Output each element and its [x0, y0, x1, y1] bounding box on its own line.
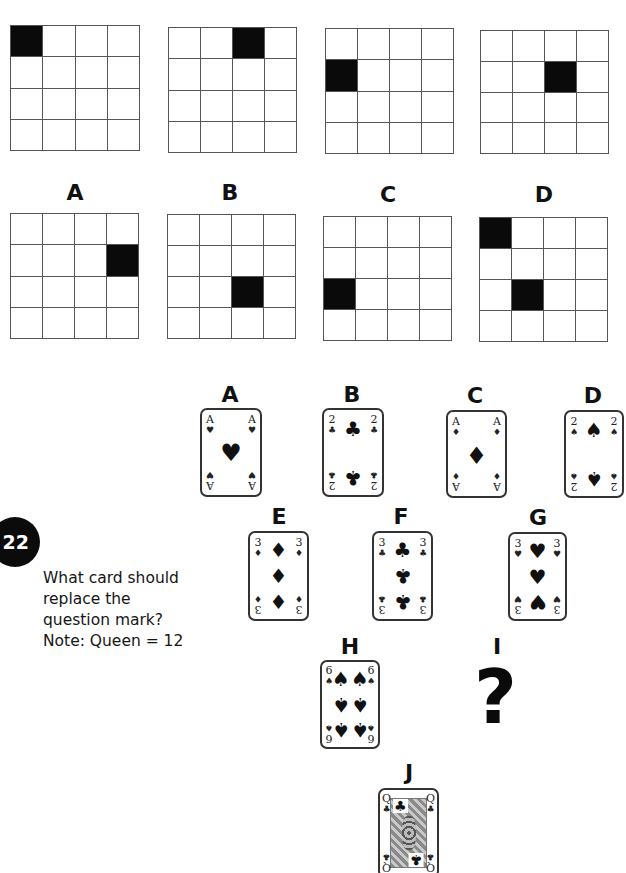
question-line-1: What card should — [43, 568, 223, 589]
heart-icon: ♥ — [529, 567, 547, 587]
card-corner: 3♣ — [419, 594, 427, 615]
grid-cell — [576, 218, 608, 249]
sequence-grid-3 — [325, 28, 454, 154]
card-corner: 3♦ — [254, 594, 262, 615]
grid-option-a[interactable] — [10, 213, 139, 339]
spade-icon: ♠ — [610, 428, 618, 437]
grid-option-label-b: B — [210, 180, 250, 205]
card-g-three-of-hearts[interactable]: 3♥ 3♥ 3♥ 3♥ ♥ ♥ ♥ — [508, 532, 567, 621]
grid-cell — [233, 122, 265, 153]
grid-cell — [356, 217, 388, 248]
question-number: 22 — [3, 531, 29, 553]
grid-cell — [11, 245, 43, 276]
grid-cell — [420, 279, 452, 310]
grid-cell — [11, 277, 43, 308]
spade-icon: ♠ — [585, 420, 603, 440]
diamond-icon: ♦ — [254, 594, 262, 603]
card-h-six-of-spades[interactable]: 6♠ 6♠ 6♠ 6♠ ♠ ♠ ♠ ♠ ♠ ♠ — [320, 660, 380, 749]
grid-cell — [512, 218, 544, 249]
grid-cell — [356, 310, 388, 341]
grid-cell — [265, 59, 297, 90]
card-label-b: B — [332, 382, 372, 407]
grid-cell — [513, 93, 545, 124]
grid-cell — [232, 277, 264, 308]
grid-cell — [577, 93, 609, 124]
grid-cell — [545, 31, 577, 62]
grid-cell — [480, 280, 512, 311]
grid-cell — [11, 26, 43, 57]
grid-cell — [480, 249, 512, 280]
diamond-icon: ♦ — [270, 592, 288, 612]
card-corner: Q♣ — [382, 852, 391, 873]
card-corner: 3♦ — [254, 537, 262, 558]
card-corner: A♥ — [248, 470, 256, 491]
grid-cell — [169, 122, 201, 153]
card-corner: 2♣ — [370, 414, 378, 435]
grid-cell — [76, 26, 108, 57]
grid-cell — [356, 279, 388, 310]
card-corner: 2♠ — [570, 471, 578, 492]
grid-cell — [513, 31, 545, 62]
grid-option-label-d: D — [524, 182, 564, 207]
club-icon: ♣ — [426, 805, 434, 814]
grid-cell — [422, 123, 454, 154]
grid-cell — [326, 29, 358, 60]
card-a-ace-of-hearts[interactable]: A♥ A♥ A♥ A♥ ♥ — [200, 408, 262, 497]
grid-option-label-c: C — [368, 182, 408, 207]
card-e-three-of-diamonds[interactable]: 3♦ 3♦ 3♦ 3♦ ♦ ♦ ♦ — [248, 531, 309, 621]
grid-option-b[interactable] — [167, 214, 296, 339]
grid-cell — [324, 217, 356, 248]
grid-cell — [233, 59, 265, 90]
card-c-ace-of-diamonds[interactable]: A♦ A♦ A♦ A♦ ♦ — [446, 410, 507, 498]
diamond-icon: ♦ — [493, 471, 501, 480]
grid-cell — [358, 123, 390, 154]
grid-cell — [326, 92, 358, 123]
grid-cell — [481, 31, 513, 62]
grid-cell — [75, 214, 107, 245]
sequence-grid-2 — [168, 27, 297, 153]
grid-cell — [11, 308, 43, 339]
card-corner: 2♠ — [610, 471, 618, 492]
card-corner: 2♣ — [370, 470, 378, 491]
grid-cell — [11, 57, 43, 88]
card-f-three-of-clubs[interactable]: 3♣ 3♣ 3♣ 3♣ ♣ ♣ ♣ — [372, 531, 433, 621]
diamond-icon: ♦ — [270, 566, 288, 586]
grid-cell — [481, 123, 513, 154]
grid-option-c[interactable] — [323, 216, 452, 341]
heart-icon: ♥ — [529, 541, 547, 561]
card-label-e: E — [259, 504, 299, 529]
heart-icon: ♥ — [248, 426, 256, 435]
grid-cell — [513, 62, 545, 93]
diamond-icon: ♦ — [270, 540, 288, 560]
grid-cell — [358, 60, 390, 91]
card-corner: 3♥ — [514, 538, 522, 559]
card-b-two-of-clubs[interactable]: 2♣ 2♣ 2♣ 2♣ ♣ ♣ — [322, 408, 384, 497]
club-icon: ♣ — [382, 852, 390, 861]
card-corner: A♥ — [206, 470, 214, 491]
grid-cell — [75, 277, 107, 308]
card-label-g: G — [518, 505, 558, 530]
grid-cell — [358, 92, 390, 123]
grid-cell — [577, 62, 609, 93]
spade-icon: ♠ — [610, 471, 618, 480]
question-line-2: replace the — [43, 589, 223, 610]
club-icon: ♣ — [328, 426, 336, 435]
grid-cell — [544, 249, 576, 280]
card-corner: 3♦ — [295, 537, 303, 558]
grid-cell — [168, 246, 200, 277]
card-j-queen-of-clubs[interactable]: ♣ ♣ Q♣ Q♣ Q♣ Q♣ — [378, 788, 439, 873]
grid-cell — [107, 245, 139, 276]
grid-cell — [108, 26, 140, 57]
card-label-h: H — [330, 634, 370, 659]
grid-cell — [168, 308, 200, 339]
club-icon: ♣ — [382, 805, 390, 814]
grid-cell — [544, 311, 576, 342]
grid-cell — [107, 277, 139, 308]
grid-cell — [358, 29, 390, 60]
grid-cell — [544, 218, 576, 249]
spade-icon: ♠ — [585, 469, 603, 489]
card-d-two-of-spades[interactable]: 2♠ 2♠ 2♠ 2♠ ♠ ♠ — [564, 410, 624, 498]
grid-option-d[interactable] — [479, 217, 608, 342]
grid-cell — [43, 57, 75, 88]
grid-cell — [324, 310, 356, 341]
